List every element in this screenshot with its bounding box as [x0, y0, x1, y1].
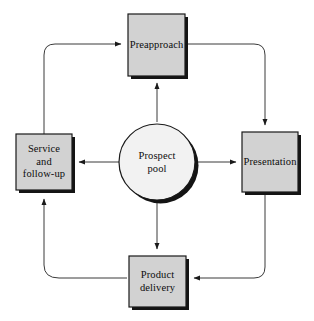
node-shape-presentation[interactable] [242, 132, 298, 192]
node-shape-product-delivery[interactable] [129, 256, 186, 307]
connector-product-delivery-to-service [44, 199, 127, 278]
node-shape-prospect-pool[interactable] [119, 124, 195, 200]
connector-presentation-to-product-delivery [194, 195, 265, 278]
process-cycle-diagram: Preapproach Presentation Product deliver… [0, 0, 314, 321]
node-shape-service-and-follow-up[interactable] [16, 134, 72, 190]
diagram-canvas [0, 0, 314, 321]
node-shape-preapproach[interactable] [128, 14, 185, 76]
connector-preapproach-to-presentation [188, 44, 265, 125]
